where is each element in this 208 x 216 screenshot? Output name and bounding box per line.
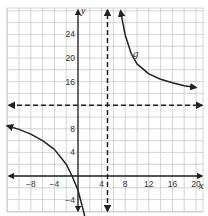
y-tick-label: 24 bbox=[66, 29, 76, 39]
x-tick-label: 12 bbox=[144, 179, 154, 189]
x-tick-label: 4 bbox=[99, 179, 104, 189]
y-tick-label: −4 bbox=[65, 195, 75, 205]
y-axis-label: y bbox=[80, 5, 86, 16]
x-axis-label: x bbox=[198, 180, 204, 191]
y-tick-label: 20 bbox=[66, 53, 76, 63]
x-tick-label: −4 bbox=[50, 179, 60, 189]
y-tick-label: 16 bbox=[66, 77, 76, 87]
curve-left-branch bbox=[7, 126, 88, 216]
x-tick-label: −8 bbox=[26, 179, 36, 189]
graph: −8−448121620−448162024 y x g bbox=[0, 0, 208, 216]
x-tick-label: 16 bbox=[168, 179, 178, 189]
y-tick-label: 8 bbox=[70, 124, 75, 134]
function-label-g: g bbox=[133, 47, 139, 59]
y-tick-label: 4 bbox=[70, 147, 75, 157]
x-tick-label: 8 bbox=[123, 179, 128, 189]
